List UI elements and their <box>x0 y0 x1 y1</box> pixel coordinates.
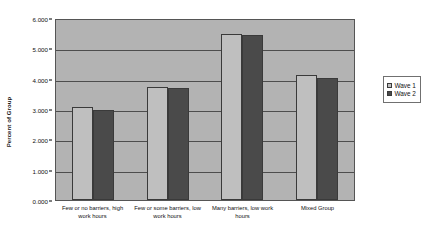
y-axis-tick-mark <box>49 19 52 20</box>
x-axis-tick-label: Mixed Group <box>280 204 355 238</box>
legend-swatch-icon <box>387 91 392 96</box>
x-axis-tick-labels: Few or no barriers, high work hoursFew o… <box>55 204 355 238</box>
legend-swatch-icon <box>387 83 392 88</box>
legend-item[interactable]: Wave 2 <box>387 90 416 97</box>
bar <box>72 107 93 200</box>
y-axis-tick-mark <box>49 201 52 202</box>
legend: Wave 1Wave 2 <box>383 76 421 103</box>
bar-chart: Percent of Group 6.0005.0004.0003.0002.0… <box>0 0 439 243</box>
bar-group <box>280 20 355 200</box>
bar <box>317 78 338 200</box>
bar <box>296 75 317 200</box>
y-axis-tick-label: 2.000 <box>33 137 48 144</box>
y-axis-tick-label: 0.000 <box>33 198 48 205</box>
y-axis-tick-label: 5.000 <box>33 46 48 53</box>
y-axis-tick-mark <box>49 110 52 111</box>
y-axis-title-label: Percent of Group <box>6 96 12 147</box>
x-axis-tick-label: Many barriers, low work hours <box>205 204 280 238</box>
bar <box>93 110 114 200</box>
bar-group <box>131 20 206 200</box>
y-axis-tick-labels: 6.0005.0004.0003.0002.0001.0000.000 <box>18 0 52 243</box>
bar-group <box>205 20 280 200</box>
y-axis-tick-label: 6.000 <box>33 16 48 23</box>
y-axis-tick-mark <box>49 170 52 171</box>
legend-item-label: Wave 1 <box>395 82 416 89</box>
bars-layer <box>56 20 354 200</box>
x-axis-tick-label: Few or no barriers, high work hours <box>55 204 130 238</box>
y-axis-tick-label: 3.000 <box>33 107 48 114</box>
y-axis-title: Percent of Group <box>0 0 18 243</box>
bar <box>242 35 263 200</box>
bar <box>168 88 189 200</box>
bar <box>221 34 242 200</box>
plot-area <box>55 19 355 201</box>
y-axis-tick-mark <box>49 49 52 50</box>
legend-item-label: Wave 2 <box>395 90 416 97</box>
y-axis-tick-label: 1.000 <box>33 167 48 174</box>
y-axis-tick-label: 4.000 <box>33 76 48 83</box>
legend-item[interactable]: Wave 1 <box>387 82 416 89</box>
y-axis-tick-mark <box>49 140 52 141</box>
x-axis-tick-label: Few or some barriers, low work hours <box>130 204 205 238</box>
bar-group <box>56 20 131 200</box>
y-axis-tick-mark <box>49 79 52 80</box>
bar <box>147 87 168 200</box>
